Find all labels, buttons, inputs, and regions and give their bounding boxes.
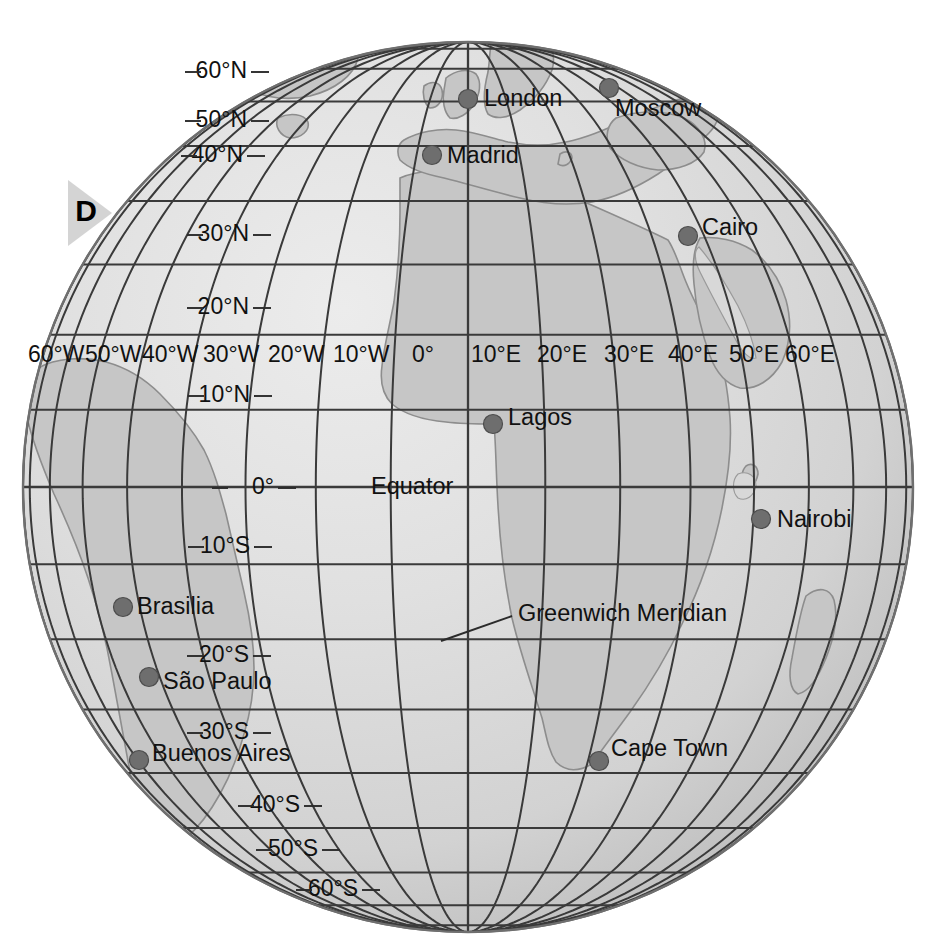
latitude-label-50N: 50°N [196, 106, 247, 132]
longitude-label-40E: 40°E [668, 341, 718, 367]
city-dot-s-o-paulo[interactable] [140, 668, 159, 687]
city-dot-cape-town[interactable] [590, 752, 609, 771]
city-label-madrid: Madrid [447, 142, 519, 168]
longitude-label-60E: 60°E [785, 341, 835, 367]
globe-map: D 60°N50°N40°N30°N20°N10°N0°10°S20°S30°S… [0, 0, 940, 943]
latitude-label-10N: 10°N [199, 381, 250, 407]
city-label-cairo: Cairo [702, 214, 758, 240]
longitude-label-10W: 10°W [333, 341, 390, 367]
city-dot-nairobi[interactable] [752, 510, 771, 529]
city-dot-buenos-aires[interactable] [130, 751, 149, 770]
latitude-label-40N: 40°N [192, 141, 243, 167]
longitude-label-20E: 20°E [537, 341, 587, 367]
longitude-label-0: 0° [412, 341, 434, 367]
city-label-moscow: Moscow [615, 95, 702, 121]
city-label-buenos-aires: Buenos Aires [152, 740, 290, 766]
latitude-label-0: 0° [252, 473, 274, 499]
longitude-label-30E: 30°E [604, 341, 654, 367]
figure-label-d: D [75, 194, 97, 227]
globe-figure: D 60°N50°N40°N30°N20°N10°N0°10°S20°S30°S… [0, 0, 940, 943]
latitude-label-40S: 40°S [250, 791, 300, 817]
latitude-label-20N: 20°N [198, 293, 249, 319]
longitude-label-60W: 60°W [28, 341, 85, 367]
greenwich-meridian-label: Greenwich Meridian [518, 600, 727, 626]
city-dot-lagos[interactable] [484, 415, 503, 434]
city-dot-london[interactable] [459, 90, 478, 109]
latitude-label-10S: 10°S [200, 532, 250, 558]
longitude-label-group: 60°W50°W40°W30°W20°W10°W0°10°E20°E30°E40… [28, 341, 835, 367]
latitude-label-60S: 60°S [308, 875, 358, 901]
city-dot-brasilia[interactable] [114, 598, 133, 617]
latitude-label-60N: 60°N [196, 57, 247, 83]
equator-label: Equator [371, 473, 453, 499]
city-dot-madrid[interactable] [423, 146, 442, 165]
latitude-label-30N: 30°N [198, 220, 249, 246]
longitude-label-50W: 50°W [85, 341, 142, 367]
city-label-cape-town: Cape Town [611, 735, 728, 761]
longitude-label-50E: 50°E [729, 341, 779, 367]
longitude-label-20W: 20°W [268, 341, 325, 367]
latitude-label-50S: 50°S [268, 835, 318, 861]
city-label-nairobi: Nairobi [777, 506, 851, 532]
latitude-label-20S: 20°S [199, 641, 249, 667]
longitude-label-40W: 40°W [142, 341, 199, 367]
city-dot-cairo[interactable] [679, 227, 698, 246]
ireland-landmass [423, 83, 442, 108]
city-label-s-o-paulo: São Paulo [163, 668, 271, 694]
city-label-lagos: Lagos [508, 404, 572, 430]
longitude-label-30W: 30°W [203, 341, 260, 367]
city-label-london: London [484, 85, 562, 111]
longitude-label-10E: 10°E [471, 341, 521, 367]
city-label-brasilia: Brasilia [137, 593, 215, 619]
